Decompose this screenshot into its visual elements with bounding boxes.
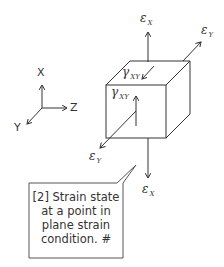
eps-y-bottom-label: εY xyxy=(89,150,101,162)
y-axis-arrow xyxy=(27,108,42,124)
eps-y-bottom-arrow xyxy=(100,111,136,148)
callout-line: plane strain xyxy=(31,218,121,232)
eps-y-top-label: εY xyxy=(201,24,213,36)
callout-line: at a point in xyxy=(31,204,121,218)
y-axis-label: Y xyxy=(14,122,21,133)
callout-line: [2] Strain state xyxy=(31,190,121,204)
eps-x-bottom-label: εX xyxy=(142,183,154,195)
gamma-top-arrow xyxy=(142,66,154,79)
callout-text: [2] Strain state at a point in plane str… xyxy=(31,190,121,246)
z-axis-label: Z xyxy=(70,102,78,113)
gamma-front-label: γXY xyxy=(111,86,129,98)
x-axis-label: X xyxy=(37,67,45,78)
callout-line: condition. # xyxy=(31,232,121,246)
eps-y-top-arrow xyxy=(183,42,201,61)
gamma-top-label: γXY xyxy=(122,66,140,78)
coordinate-axes xyxy=(27,85,67,124)
eps-x-top-label: εX xyxy=(140,12,152,24)
